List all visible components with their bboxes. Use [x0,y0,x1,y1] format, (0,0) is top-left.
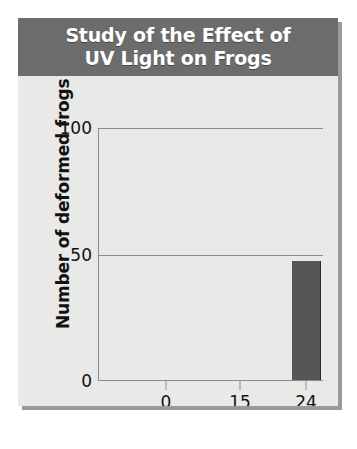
y-tick-label-50: 50 [70,245,92,265]
chart-title-banner: Study of the Effect of UV Light on Frogs [18,18,338,76]
x-tick-label-24: 24 [295,392,317,406]
x-tick-label-0: 0 [161,392,172,406]
y-tick-label-0: 0 [81,371,92,391]
bar-24 [292,261,321,380]
chart-card: Study of the Effect of UV Light on Frogs… [18,18,338,406]
gridline-100 [98,128,323,129]
plot-area: Number of deformed frogs 100 50 0 0 15 2… [18,76,338,406]
x-tick-mark-15 [240,381,241,390]
x-tick-label-15: 15 [229,392,251,406]
y-tick-label-100: 100 [60,118,92,138]
chart-title-line-1: Study of the Effect of [65,24,290,47]
x-tick-mark-0 [166,381,167,390]
chart-figure: Study of the Effect of UV Light on Frogs… [0,0,357,449]
axes: 100 50 0 0 15 24 [98,128,323,381]
y-axis-label: Number of deformed frogs [53,79,73,329]
gridline-50 [98,255,323,256]
x-axis-line [98,380,323,381]
x-tick-mark-24 [306,381,307,390]
chart-title-line-2: UV Light on Frogs [84,47,271,70]
